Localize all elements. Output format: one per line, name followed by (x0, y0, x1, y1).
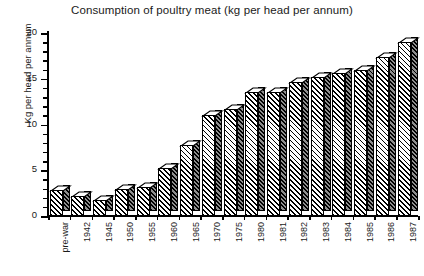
x-tick (374, 216, 376, 220)
x-tick (135, 216, 137, 220)
bar-side-face (193, 140, 200, 211)
x-tick-label: 1965 (191, 222, 203, 242)
x-tick-label: 1945 (104, 222, 116, 242)
bar-front-face (137, 187, 150, 216)
bar-1945[interactable] (93, 195, 113, 216)
bar-front-face (158, 168, 171, 216)
x-tick (70, 216, 72, 220)
x-tick-label: 1981 (278, 222, 290, 242)
y-tick-major (41, 125, 48, 127)
bar-side-face (258, 87, 265, 211)
y-tick-label: 10 (0, 119, 37, 129)
x-tick-label: 1982 (299, 222, 311, 242)
x-tick-label: 1983 (321, 222, 333, 242)
bar-side-face (324, 72, 331, 211)
x-tick-label: 1955 (147, 222, 159, 242)
x-tick (113, 216, 115, 220)
x-tick-label: 1986 (386, 222, 398, 242)
bar-front-face (180, 145, 193, 216)
x-tick-label: 1942 (82, 222, 94, 242)
x-tick (309, 216, 311, 220)
x-tick (396, 216, 398, 220)
bar-front-face (245, 92, 258, 216)
bar-front-face (71, 196, 84, 216)
bar-1942[interactable] (71, 191, 91, 216)
bar-1970[interactable] (202, 110, 222, 216)
x-tick (244, 216, 246, 220)
x-tick (266, 216, 268, 220)
y-tick-major (41, 170, 48, 172)
x-tick (200, 216, 202, 220)
bar-front-face (267, 92, 280, 216)
bar-side-face (171, 163, 178, 211)
x-tick-label: 1970 (212, 222, 224, 242)
bar-front-face (376, 57, 389, 216)
x-tick (179, 216, 181, 220)
bar-1985[interactable] (354, 65, 374, 216)
bar-1982[interactable] (289, 77, 309, 216)
x-tick-label: 1987 (408, 222, 420, 242)
bar-1960[interactable] (158, 163, 178, 216)
y-tick-label: 15 (0, 73, 37, 83)
x-tick (331, 216, 333, 220)
bar-1983[interactable] (311, 72, 331, 216)
x-tick (287, 216, 289, 220)
plot-area (48, 33, 418, 216)
x-tick-label: pre-war (60, 222, 72, 253)
x-tick-label: 1984 (343, 222, 355, 242)
x-tick (222, 216, 224, 220)
bar-front-face (202, 115, 215, 216)
y-tick-major (41, 79, 48, 81)
bar-side-face (345, 68, 352, 211)
x-tick-label: 1980 (256, 222, 268, 242)
bar-side-face (237, 104, 244, 211)
bar-1987[interactable] (398, 37, 418, 216)
bar-side-face (389, 52, 396, 211)
bar-front-face (354, 70, 367, 216)
y-tick-label: 0 (0, 210, 37, 220)
bar-front-face (311, 77, 324, 216)
chart-title: Consumption of poultry meat (kg per head… (0, 4, 424, 16)
chart-container: Consumption of poultry meat (kg per head… (0, 0, 424, 276)
bar-1955[interactable] (137, 182, 157, 216)
x-tick-label: 1950 (125, 222, 137, 242)
bar-side-face (411, 37, 418, 211)
bar-front-face (398, 42, 411, 216)
bar-1975[interactable] (224, 104, 244, 216)
bar-1986[interactable] (376, 52, 396, 216)
bar-1950[interactable] (115, 184, 135, 216)
bar-side-face (215, 110, 222, 211)
bar-front-face (289, 82, 302, 216)
x-tick (157, 216, 159, 220)
x-tick-label: 1985 (365, 222, 377, 242)
y-tick-label: 20 (0, 27, 37, 37)
bar-1984[interactable] (332, 68, 352, 216)
x-tick (418, 216, 420, 220)
bar-pre-war[interactable] (50, 185, 70, 216)
y-tick-major (41, 216, 48, 218)
bar-front-face (224, 109, 237, 216)
bar-side-face (367, 65, 374, 211)
x-tick (92, 216, 94, 220)
bar-side-face (280, 87, 287, 211)
y-tick-major (41, 33, 48, 35)
bar-1980[interactable] (245, 87, 265, 216)
bar-1965[interactable] (180, 140, 200, 216)
x-tick (353, 216, 355, 220)
bar-front-face (50, 190, 63, 216)
y-tick-label: 5 (0, 164, 37, 174)
bar-front-face (332, 73, 345, 216)
x-tick-label: 1975 (234, 222, 246, 242)
x-tick-label: 1960 (169, 222, 181, 242)
bar-front-face (115, 189, 128, 216)
bar-side-face (302, 77, 309, 211)
x-tick (48, 216, 50, 220)
bar-1981[interactable] (267, 87, 287, 216)
bar-front-face (93, 200, 106, 216)
